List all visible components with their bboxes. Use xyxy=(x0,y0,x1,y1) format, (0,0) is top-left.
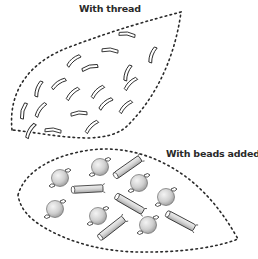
thread-panel xyxy=(12,12,181,139)
beads-panel xyxy=(18,149,238,252)
thread-panel-outline xyxy=(12,12,181,138)
label-with-thread: With thread xyxy=(79,3,141,14)
tube-beads xyxy=(71,154,198,242)
round-beads xyxy=(44,158,177,235)
illustration-svg xyxy=(0,0,258,259)
illustration: With thread With beads added xyxy=(0,0,258,259)
label-with-beads-added: With beads added xyxy=(166,148,258,159)
thread-stitches xyxy=(19,31,157,139)
